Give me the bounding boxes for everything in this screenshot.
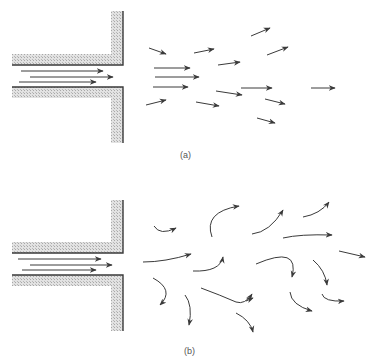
flow-arrow-icon	[267, 47, 288, 55]
flow-arrow-icon	[143, 254, 191, 262]
flow-arrow-icon	[153, 278, 166, 305]
flow-arrow-icon	[303, 202, 329, 217]
flow-arrow-icon	[210, 206, 239, 237]
panel-b-turbulent-jet	[12, 200, 365, 332]
flow-arrow-icon	[251, 28, 270, 36]
flow-arrow-icon	[154, 226, 176, 232]
wall-lower-vertical	[111, 275, 123, 331]
flow-arrow-icon	[216, 91, 242, 95]
flow-arrow-icon	[201, 288, 252, 303]
jet-flow-diagram	[0, 0, 377, 364]
flow-arrows	[18, 202, 365, 332]
flow-arrow-icon	[185, 295, 190, 325]
flow-arrow-icon	[322, 294, 344, 301]
flow-arrow-icon	[146, 100, 166, 105]
flow-arrow-icon	[257, 118, 275, 123]
flow-arrow-icon	[194, 49, 214, 53]
caption-a: (a)	[180, 150, 191, 160]
caption-b: (b)	[184, 346, 195, 356]
flow-arrow-icon	[149, 48, 166, 54]
flow-arrow-icon	[265, 99, 285, 104]
flow-arrow-icon	[196, 102, 219, 106]
flow-arrow-icon	[236, 313, 253, 332]
wall-upper-horizontal	[12, 242, 123, 253]
flow-arrow-icon	[256, 257, 293, 277]
flow-arrow-icon	[283, 235, 332, 238]
wall-lower-vertical	[111, 87, 123, 143]
wall-upper-vertical	[111, 200, 123, 242]
flow-arrow-icon	[339, 251, 365, 257]
wall-lower-horizontal	[12, 87, 123, 98]
wall-upper-horizontal	[12, 54, 123, 65]
flow-arrow-icon	[313, 260, 327, 285]
flow-arrow-icon	[218, 62, 240, 65]
panel-a-laminar-jet	[12, 11, 335, 143]
flow-arrow-icon	[252, 210, 283, 234]
flow-arrow-icon	[290, 292, 312, 311]
wall-lower-horizontal	[12, 275, 123, 286]
flow-arrows	[19, 28, 335, 123]
flow-arrow-icon	[193, 257, 223, 271]
